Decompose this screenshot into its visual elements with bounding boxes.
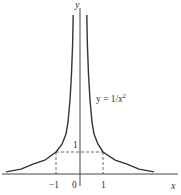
tick-label-neg1: −1 xyxy=(49,180,59,190)
tick-label-1: 1 xyxy=(101,180,106,190)
y-tick-label-1: 1 xyxy=(73,140,78,150)
y-axis-label: y xyxy=(74,0,80,10)
curve-left-branch xyxy=(6,15,73,172)
tick-label-0: 0 xyxy=(72,180,77,190)
function-label: y = 1/x2 xyxy=(96,92,126,104)
x-axis-label: x xyxy=(170,180,176,191)
chart-canvas: y x −1 0 1 1 y = 1/x2 xyxy=(0,0,181,195)
